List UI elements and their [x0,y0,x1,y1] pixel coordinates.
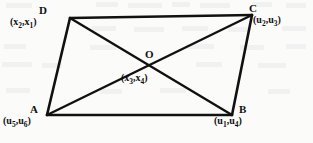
edge-CB [232,15,252,115]
paren-close: ) [238,115,241,126]
vertex-label-A: A [30,104,38,115]
vertex-label-D: D [39,5,47,16]
paren-close: ) [277,14,280,25]
vertex-label-O: O [145,49,154,60]
coord-sub-2: 1 [30,21,34,30]
edge-AD [47,18,70,115]
coord-sub-2: 4 [235,120,239,129]
coord-sub-2: 6 [24,120,28,129]
figure-page: D (x2,x1) C (u2,u3) O (x3,x4) A (u5,u6) … [0,0,313,143]
diagonal-DB [70,18,232,115]
coord-var-2: u [268,14,274,25]
coord-sub-1: 5 [12,120,16,129]
vertex-label-B: B [239,104,246,115]
paren-close: ) [33,16,36,27]
vertex-coord-D: (x2,x1) [10,17,37,27]
coord-var-2: u [229,115,235,126]
coord-sub-1: 2 [262,19,266,28]
coord-var-2: x [25,16,30,27]
coord-var-2: u [18,115,24,126]
vertex-coord-B: (u1,u4) [214,116,242,126]
coord-sub-1: 1 [223,120,227,129]
paren-close: ) [27,115,30,126]
vertex-coord-A: (u5,u6) [3,116,31,126]
edge-DC [70,15,252,18]
coord-sub-2: 4 [141,77,145,86]
paren-close: ) [144,72,147,83]
vertex-coord-C: (u2,u3) [253,15,281,25]
vertex-coord-O: (x3,x4) [121,73,148,83]
coord-sub-1: 3 [129,77,133,86]
coord-var-2: x [136,72,141,83]
vertex-label-C: C [249,3,257,14]
coord-sub-1: 2 [18,21,22,30]
coord-sub-2: 3 [274,19,278,28]
